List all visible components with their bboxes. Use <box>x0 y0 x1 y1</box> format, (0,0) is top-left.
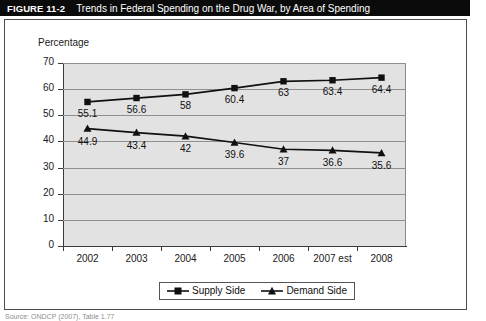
data-point-label: 58 <box>180 100 191 111</box>
x-tick-label: 2003 <box>125 253 147 264</box>
data-point-label: 63 <box>278 87 289 98</box>
y-tick-mark <box>58 63 63 64</box>
x-tick-mark <box>308 246 309 251</box>
y-tick-label: 20 <box>43 187 54 198</box>
y-axis-tick: 70 <box>58 63 63 64</box>
figure-caption: Trends in Federal Spending on the Drug W… <box>76 3 370 14</box>
gridline <box>63 115 406 116</box>
gridline <box>63 141 406 142</box>
data-point-label: 55.1 <box>78 108 97 119</box>
y-axis-tick: 10 <box>58 220 63 221</box>
y-tick-mark <box>58 194 63 195</box>
x-tick-label: 2006 <box>272 253 294 264</box>
data-point-label: 42 <box>180 143 191 154</box>
y-tick-label: 10 <box>43 213 54 224</box>
gridline <box>63 89 406 90</box>
data-point-label: 39.6 <box>225 149 244 160</box>
data-point-label: 64.4 <box>372 84 391 95</box>
y-axis-title: Percentage <box>38 37 89 48</box>
y-tick-mark <box>58 141 63 142</box>
x-tick-mark <box>112 246 113 251</box>
data-point-label: 43.4 <box>127 140 146 151</box>
y-tick-mark <box>58 89 63 90</box>
gridline <box>63 194 406 195</box>
data-point-label: 36.6 <box>323 157 342 168</box>
y-tick-label: 0 <box>48 239 54 250</box>
x-tick-mark <box>357 246 358 251</box>
y-tick-label: 70 <box>43 56 54 67</box>
square-marker-icon <box>167 286 189 296</box>
figure-number: FIGURE 11-2 <box>7 3 65 14</box>
y-tick-mark <box>58 115 63 116</box>
figure-frame: Percentage 010203040506070 2002200320042… <box>4 19 467 310</box>
legend-label-supply-side: Supply Side <box>192 285 245 296</box>
y-tick-mark <box>58 168 63 169</box>
y-tick-mark <box>58 220 63 221</box>
data-point-label: 56.6 <box>127 104 146 115</box>
x-tick-mark <box>63 246 64 251</box>
source-note: Source: ONDCP (2007), Table 1.77 <box>5 313 114 321</box>
y-tick-label: 50 <box>43 108 54 119</box>
x-tick-mark <box>259 246 260 251</box>
y-tick-label: 60 <box>43 82 54 93</box>
y-axis-tick: 40 <box>58 141 63 142</box>
x-tick-label: 2008 <box>370 253 392 264</box>
data-point-label: 63.4 <box>323 86 342 97</box>
data-point-label: 35.6 <box>372 160 391 171</box>
y-axis-tick: 50 <box>58 115 63 116</box>
x-tick-label: 2005 <box>223 253 245 264</box>
figure-title-bar: FIGURE 11-2 Trends in Federal Spending o… <box>0 0 470 16</box>
y-axis-tick: 20 <box>58 194 63 195</box>
triangle-marker-icon <box>261 286 283 296</box>
chart-legend: Supply Side Demand Side <box>159 282 355 300</box>
legend-entry-demand-side[interactable]: Demand Side <box>261 285 347 296</box>
y-axis-tick: 60 <box>58 89 63 90</box>
y-tick-label: 40 <box>43 134 54 145</box>
legend-label-demand-side: Demand Side <box>286 285 347 296</box>
x-tick-label: 2007 est <box>313 253 351 264</box>
y-tick-label: 30 <box>43 161 54 172</box>
data-point-label: 37 <box>278 156 289 167</box>
x-tick-mark <box>210 246 211 251</box>
data-point-label: 44.9 <box>78 136 97 147</box>
x-tick-mark <box>161 246 162 251</box>
y-axis-tick: 30 <box>58 168 63 169</box>
x-tick-label: 2002 <box>76 253 98 264</box>
x-tick-label: 2004 <box>174 253 196 264</box>
legend-entry-supply-side[interactable]: Supply Side <box>167 285 245 296</box>
x-axis-line <box>63 246 407 247</box>
gridline <box>63 168 406 169</box>
gridline <box>63 63 406 64</box>
gridline <box>63 220 406 221</box>
data-point-label: 60.4 <box>225 94 244 105</box>
